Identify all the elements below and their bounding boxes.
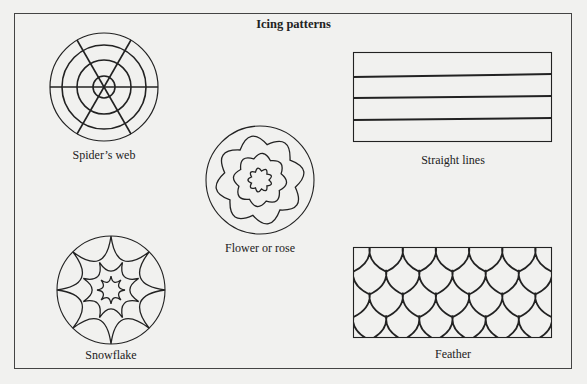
- feather-icon: [353, 247, 553, 339]
- spiders-web-label: Spider’s web: [44, 148, 164, 163]
- spiders-web-icon: [44, 27, 164, 147]
- snowflake-icon: [55, 234, 167, 346]
- flower-or-rose-label: Flower or rose: [200, 241, 320, 256]
- snowflake-label: Snowflake: [51, 348, 171, 363]
- straight-lines-icon: [353, 52, 553, 144]
- flower-or-rose-icon: [204, 124, 316, 236]
- straight-lines-label: Straight lines: [393, 153, 513, 168]
- feather-label: Feather: [393, 347, 513, 362]
